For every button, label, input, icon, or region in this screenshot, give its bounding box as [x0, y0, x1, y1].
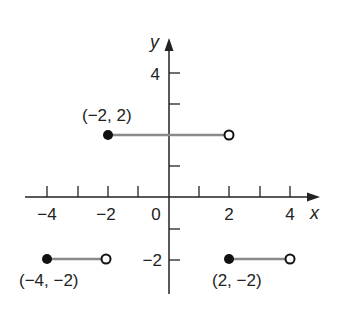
point-label: (−4, −2)	[19, 271, 79, 290]
y-axis-label: y	[148, 32, 160, 52]
x-axis-label: x	[309, 203, 320, 223]
x-tick-label: 0	[151, 205, 160, 224]
y-tick-label: −2	[143, 251, 162, 270]
point-label: (−2, 2)	[82, 106, 132, 125]
point-label: (2, −2)	[212, 271, 262, 290]
segment-3	[224, 254, 295, 264]
open-point	[225, 131, 234, 140]
y-tick-label: 4	[151, 65, 160, 84]
x-tick-label: −2	[96, 205, 115, 224]
y-axis-arrow-icon	[165, 38, 174, 51]
open-point	[102, 255, 111, 264]
axes	[25, 46, 312, 294]
closed-point	[224, 254, 234, 264]
closed-point	[103, 130, 113, 140]
x-tick-label: −4	[37, 205, 56, 224]
x-tick-label: 4	[285, 205, 294, 224]
x-axis-arrow-icon	[307, 193, 320, 202]
closed-point	[42, 254, 52, 264]
open-point	[286, 255, 295, 264]
x-tick-label: 2	[224, 205, 233, 224]
step-function-graph: −4 −2 0 2 4 4 −2 x y (−2, 2) (−4, −2) (2…	[0, 0, 346, 320]
segment-1	[42, 254, 111, 264]
y-ticks	[169, 73, 180, 260]
